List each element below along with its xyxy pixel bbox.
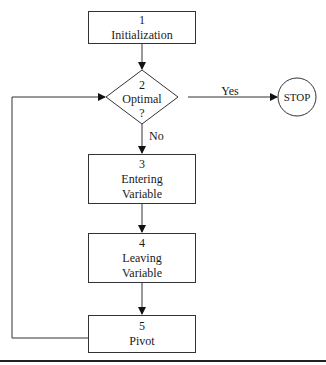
- arrow-loop-5-to-2: [12, 97, 105, 338]
- node-number: 2: [112, 78, 172, 92]
- node-label: Pivot: [129, 334, 154, 349]
- node-label: Variable: [122, 266, 162, 281]
- node-label: Initialization: [111, 28, 172, 43]
- node-initialization: 1 Initialization: [88, 11, 196, 44]
- stop-label: STOP: [278, 90, 316, 104]
- node-leaving-variable: 4 Leaving Variable: [88, 233, 196, 283]
- node-label: Variable: [122, 187, 162, 202]
- edge-label-yes: Yes: [215, 84, 245, 98]
- edge-label-no: No: [149, 129, 169, 143]
- node-optimal-decision: 2 Optimal ?: [112, 78, 172, 120]
- node-label-question: ?: [112, 106, 172, 120]
- node-number: 4: [139, 236, 145, 251]
- node-entering-variable: 3 Entering Variable: [88, 154, 196, 204]
- node-number: 3: [139, 157, 145, 172]
- bottom-rule: [0, 360, 326, 362]
- node-label: Leaving: [122, 251, 161, 266]
- node-label: Optimal: [112, 92, 172, 106]
- node-label: Entering: [121, 172, 162, 187]
- node-number: 5: [139, 319, 145, 334]
- node-pivot: 5 Pivot: [88, 315, 196, 353]
- node-number: 1: [139, 13, 145, 28]
